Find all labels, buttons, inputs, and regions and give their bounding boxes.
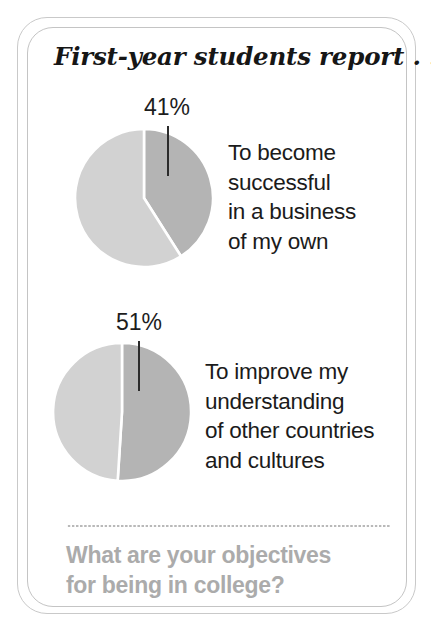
footer-question-line-2: for being in college? <box>66 570 406 600</box>
page-title: First-year students report . . . <box>54 42 394 71</box>
pie-2-caption-line-3: of other countries <box>205 416 374 446</box>
pie-2-leader-line <box>138 341 140 391</box>
pie-2-caption-line-2: understanding <box>205 387 374 417</box>
pie-2-percent-label: 51% <box>116 309 162 336</box>
infographic-card: First-year students report . . . 41% To … <box>0 0 431 630</box>
footer-question: What are your objectives for being in co… <box>66 540 406 600</box>
dotted-divider <box>67 524 391 528</box>
pie-1-caption-line-2: successful <box>228 168 356 198</box>
pie-2-caption: To improve my understanding of other cou… <box>205 357 374 475</box>
pie-1-caption-line-4: of my own <box>228 227 356 257</box>
pie-1-leader-line <box>167 126 169 176</box>
pie-1-caption-line-1: To become <box>228 138 356 168</box>
pie-1-caption: To become successful in a business of my… <box>228 138 356 256</box>
footer-question-line-1: What are your objectives <box>66 540 406 570</box>
pie-chart-2 <box>52 342 192 482</box>
pie-2-caption-line-1: To improve my <box>205 357 374 387</box>
pie-chart-1-svg <box>74 128 214 268</box>
pie-1-percent-label: 41% <box>144 94 190 121</box>
pie-2-caption-line-4: and cultures <box>205 446 374 476</box>
card-frame-inner <box>27 27 407 607</box>
pie-chart-1 <box>74 128 214 268</box>
pie-slice <box>118 343 191 481</box>
pie-1-caption-line-3: in a business <box>228 197 356 227</box>
pie-chart-2-svg <box>52 342 192 482</box>
pie-slice <box>53 343 122 481</box>
